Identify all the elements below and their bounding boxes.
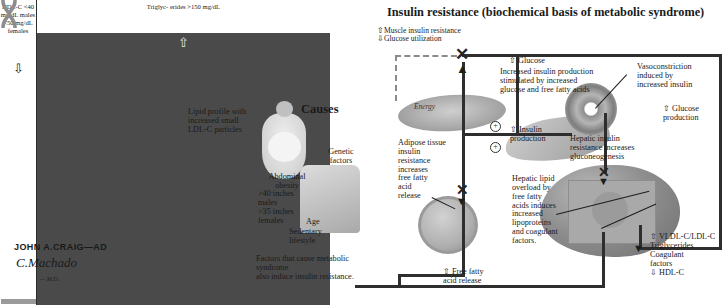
hepatic-insulin-resistance-label: Hepatic insulin resistance increases glu…: [570, 135, 634, 162]
liver-output-arrowhead: ▼: [633, 243, 644, 254]
muscle-glucose-uptake-line: [462, 62, 465, 277]
muscle-uptake-dashed-vertical: [395, 55, 397, 101]
insulin-resistance-title: Insulin resistance (biochemical basis of…: [387, 6, 704, 19]
vasoconstriction-label: Vasoconstriction induced by increased in…: [637, 63, 692, 90]
right-loop-vertical-line: [719, 54, 722, 250]
ffa-to-liver-vertical: [602, 232, 605, 286]
adipose-tissue-label: Adipose tissue insulin resistance increa…: [398, 139, 446, 201]
hdl-c-decrease-label: ⇩ HDL-C: [650, 269, 684, 278]
adipose-arrowhead: ▼: [456, 196, 467, 207]
insulin-production-label: ⇧ Insulin production: [510, 126, 545, 144]
insulin-resistance-panel: Insulin resistance (biochemical basis of…: [0, 0, 727, 305]
energy-label: Energy: [414, 103, 435, 111]
glucose-uptake-arrowhead: ▲: [456, 62, 469, 75]
hepatic-lipid-overload-label: Hepatic lipid overload by free fatty aci…: [512, 175, 558, 246]
vldl-ldl-triglycerides-label: ⇧ VLDL-C/LDL-C Triglycerides Coagulant f…: [650, 233, 715, 268]
free-fatty-acid-release-label: ⇧ Free fatty acid release: [443, 268, 484, 286]
increased-insulin-production-label: Increased insulin production stimulated …: [500, 68, 593, 95]
glucose-top-flow-line: [462, 54, 722, 57]
hepatic-arrowhead: ▼: [598, 176, 609, 187]
stimulation-plus-icon-2: +: [490, 142, 501, 153]
muscle-uptake-dashed-line: [395, 55, 457, 57]
muscle-insulin-resistance-label: ⇧Muscle insulin resistance ⇩Glucose util…: [377, 27, 461, 43]
glucose-production-label: ⇧ Glucose production: [663, 105, 699, 123]
glucose-top-label: ⇧ Glucose: [509, 57, 545, 66]
stimulation-plus-icon-1: +: [490, 121, 501, 132]
